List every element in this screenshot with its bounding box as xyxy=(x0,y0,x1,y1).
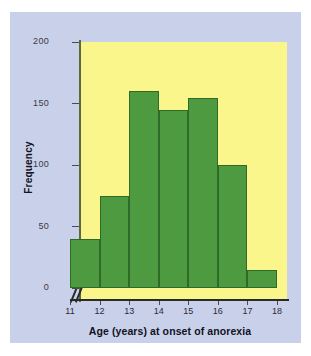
x-tick-label: 13 xyxy=(119,307,139,316)
x-axis-title: Age (years) at onset of anorexia xyxy=(50,325,290,337)
x-tick-mark xyxy=(277,301,278,305)
y-tick-mark xyxy=(72,165,79,166)
x-tick-label: 18 xyxy=(267,307,287,316)
y-axis-title: Frequency xyxy=(23,128,34,208)
x-tick-label: 17 xyxy=(237,307,257,316)
y-tick-label: 0 xyxy=(44,283,49,292)
x-axis-line xyxy=(70,299,289,301)
x-tick-mark xyxy=(100,301,101,305)
x-tick-mark xyxy=(159,301,160,305)
y-tick-label: 150 xyxy=(33,99,49,108)
x-tick-label: 11 xyxy=(60,307,80,316)
x-tick-label: 15 xyxy=(178,307,198,316)
x-tick-mark xyxy=(188,301,189,305)
chart-panel: 050100150200 1112131415161718 Frequency … xyxy=(10,12,301,343)
histogram-bar xyxy=(100,196,130,288)
x-tick-mark xyxy=(247,301,248,305)
x-tick-mark xyxy=(129,301,130,305)
x-tick-label: 16 xyxy=(208,307,228,316)
y-tick-label: 200 xyxy=(33,37,49,46)
histogram-bar xyxy=(218,165,248,288)
y-tick-mark xyxy=(72,103,79,104)
x-tick-mark xyxy=(218,301,219,305)
axis-break-marker xyxy=(70,286,86,304)
y-tick-label: 100 xyxy=(33,160,49,169)
x-tick-label: 14 xyxy=(149,307,169,316)
y-tick-mark xyxy=(72,226,79,227)
x-tick-mark xyxy=(70,301,71,305)
x-tick-label: 12 xyxy=(90,307,110,316)
y-tick-mark xyxy=(72,42,79,43)
histogram-bar xyxy=(70,239,100,288)
histogram-bar xyxy=(129,91,159,288)
y-tick-label: 50 xyxy=(38,222,49,231)
histogram-bar xyxy=(188,98,218,288)
histogram-bar xyxy=(247,270,277,288)
figure-container: 050100150200 1112131415161718 Frequency … xyxy=(0,0,311,356)
histogram-bar xyxy=(159,110,189,288)
